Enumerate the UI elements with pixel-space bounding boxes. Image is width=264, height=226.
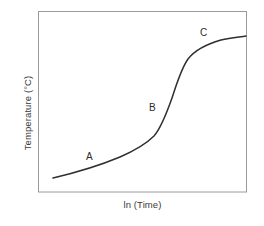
x-axis-label: ln (Time) <box>38 199 247 210</box>
curve-region-label-b: B <box>149 102 156 113</box>
curve-region-label-a: A <box>86 151 93 162</box>
plot-frame <box>39 12 247 193</box>
sigmoid-plot <box>0 0 264 226</box>
figure-container: Temperature (°C) ln (Time) A B C <box>0 0 264 226</box>
curve-region-label-c: C <box>200 27 207 38</box>
y-axis-label: Temperature (°C) <box>21 0 35 226</box>
